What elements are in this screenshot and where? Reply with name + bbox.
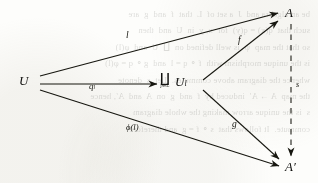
arrow-u-to-a [40, 13, 278, 76]
node-coproduct-symbol: ∐ j∈L [158, 71, 172, 88]
arrow-coproduct-to-a-prime [203, 90, 279, 159]
diagram-canvas: be an algebra and J a set of L that f an… [0, 0, 318, 183]
arrow-u-to-a-prime [40, 90, 279, 166]
coproduct-index: j∈L [158, 83, 172, 88]
diagram-arrows: A' dashed --> [0, 0, 318, 183]
